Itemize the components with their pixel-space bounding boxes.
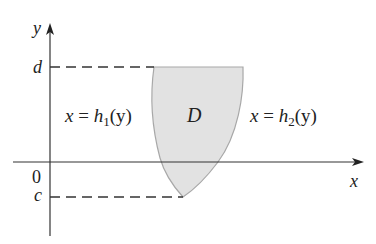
left-curve-label: x = h1(y) — [64, 105, 132, 129]
y-axis-label: y — [31, 18, 41, 38]
x-axis-label: x — [349, 171, 358, 191]
region-d — [152, 67, 243, 197]
origin-label: 0 — [32, 167, 41, 187]
right-curve-label: x = h2(y) — [249, 105, 317, 129]
region-diagram: y x d c 0 D x = h1(y) x = h2(y) — [0, 0, 376, 244]
tick-d-label: d — [33, 57, 43, 77]
region-label: D — [186, 104, 202, 126]
tick-c-label: c — [34, 185, 42, 205]
